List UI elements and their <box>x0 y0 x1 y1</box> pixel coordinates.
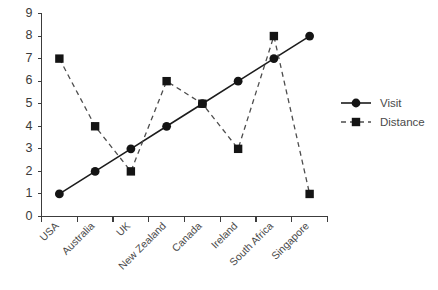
data-point-circle <box>234 77 243 86</box>
data-point-square <box>270 32 278 40</box>
y-axis-tick-label: 4 <box>26 119 33 133</box>
y-axis-tick-label: 1 <box>26 186 33 200</box>
data-point-square <box>162 77 170 85</box>
data-point-circle <box>55 190 64 199</box>
x-axis-tick-label: Singapore <box>269 219 311 261</box>
data-point-circle <box>305 32 314 41</box>
data-point-square <box>91 122 99 130</box>
y-axis: 0123456789 <box>26 6 42 223</box>
circle-icon <box>352 99 361 108</box>
x-axis-tick-label: Canada <box>169 219 204 254</box>
y-axis-tick-label: 9 <box>26 6 33 20</box>
square-icon <box>352 118 360 126</box>
data-point-square <box>198 100 206 108</box>
data-point-square <box>127 167 135 175</box>
series-visit <box>55 32 314 199</box>
legend-label: Visit <box>380 97 402 109</box>
x-axis: USAAustraliaUKNew ZealandCanadaIrelandSo… <box>37 217 327 272</box>
legend-item-visit[interactable]: Visit <box>341 97 402 109</box>
x-axis-tick-label: USA <box>37 219 61 243</box>
y-axis-tick-label: 7 <box>26 51 33 65</box>
y-axis-tick-label: 0 <box>26 209 33 223</box>
chart-container: 0123456789 USAAustraliaUKNew ZealandCana… <box>0 0 438 290</box>
data-series-group <box>55 32 314 199</box>
y-axis-tick-label: 8 <box>26 28 33 42</box>
data-point-square <box>55 54 63 62</box>
y-axis-tick-label: 6 <box>26 73 33 87</box>
y-axis-tick-label: 2 <box>26 164 33 178</box>
y-axis-tick-label: 5 <box>26 96 33 110</box>
legend-label: Distance <box>380 116 425 128</box>
data-point-square <box>234 145 242 153</box>
legend-item-distance[interactable]: Distance <box>341 116 425 128</box>
data-point-circle <box>126 144 135 153</box>
y-axis-tick-label: 3 <box>26 141 33 155</box>
x-axis-tick-label: Ireland <box>208 219 239 250</box>
x-axis-tick-label: UK <box>113 219 132 238</box>
line-chart: 0123456789 USAAustraliaUKNew ZealandCana… <box>0 0 438 290</box>
data-point-circle <box>162 122 171 131</box>
chart-legend: VisitDistance <box>341 97 425 128</box>
data-point-circle <box>91 167 100 176</box>
data-point-circle <box>269 54 278 63</box>
data-point-square <box>305 190 313 198</box>
x-axis-tick-label: Australia <box>59 219 96 256</box>
